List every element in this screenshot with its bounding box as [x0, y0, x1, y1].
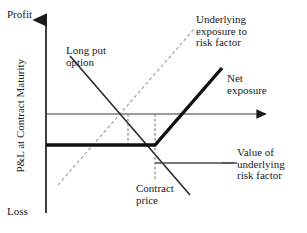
axis-label-loss: Loss — [7, 206, 28, 218]
annotation-contract-price: Contract price — [136, 183, 174, 206]
y-axis-title: P&L at Contract Maturity — [15, 56, 27, 176]
annotation-underlying-exposure: Underlying exposure to risk factor — [196, 14, 247, 49]
axis-label-profit: Profit — [7, 9, 32, 21]
annotation-net-exposure: Net exposure — [227, 73, 267, 96]
series-net-exposure-line — [46, 68, 222, 145]
annotation-value-underlying-risk-factor: Value of underlying risk factor — [237, 147, 285, 182]
chart-figure: Profit Loss P&L at Contract Maturity Lon… — [0, 0, 307, 233]
annotation-long-put-option: Long put option — [66, 45, 106, 68]
